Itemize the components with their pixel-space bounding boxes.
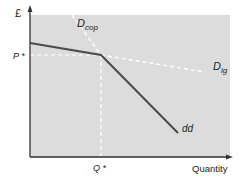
plot-area xyxy=(30,15,230,157)
y-axis-label: £ xyxy=(15,7,21,19)
q-star-label: Q * xyxy=(93,163,107,173)
x-axis-label: Quantity xyxy=(192,163,228,174)
y-axis-arrow-icon xyxy=(28,5,33,12)
p-star-label: P * xyxy=(13,51,25,61)
dd-label: dd xyxy=(182,123,194,134)
kinked-demand-chart: £ Quantity P * Q * Dcop Dig dd xyxy=(0,0,245,179)
